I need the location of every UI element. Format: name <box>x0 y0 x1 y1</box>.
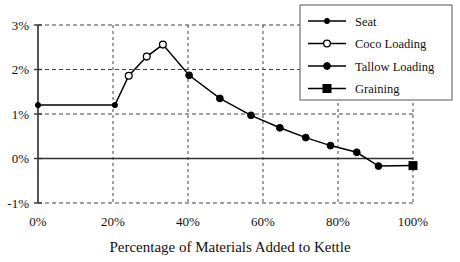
legend-marker-small-filled-circle <box>324 18 329 23</box>
data-point-marker <box>125 72 132 79</box>
legend-marker-filled-square <box>323 85 331 93</box>
y-tick-label: 0% <box>12 151 30 166</box>
x-tick-label: 80% <box>326 214 350 229</box>
x-tick-label: 0% <box>29 214 47 229</box>
data-point-marker <box>159 41 166 48</box>
legend-label: Tallow Loading <box>355 60 435 74</box>
y-tick-label: 3% <box>12 18 30 33</box>
data-point-marker <box>327 142 334 149</box>
data-point-marker <box>375 163 382 170</box>
legend-marker-filled-circle <box>324 63 331 70</box>
data-point-marker <box>112 103 117 108</box>
y-tick-label: -1% <box>7 196 29 211</box>
data-point-marker <box>248 112 255 119</box>
y-axis-tick-labels: -1%0%1%2%3% <box>7 18 29 211</box>
data-point-marker <box>409 162 417 170</box>
data-point-marker <box>35 103 40 108</box>
data-point-marker <box>276 124 283 131</box>
x-tick-label: 60% <box>251 214 275 229</box>
data-point-marker <box>353 149 360 156</box>
data-point-marker <box>302 134 309 141</box>
data-point-marker <box>216 95 223 102</box>
x-axis-title: Percentage of Materials Added to Kettle <box>109 239 351 255</box>
y-tick-label: 2% <box>12 62 30 77</box>
chart-legend: SeatCoco LoadingTallow LoadingGraining <box>300 5 452 100</box>
legend-label: Graining <box>355 82 400 96</box>
data-point-marker <box>186 72 193 79</box>
x-tick-label: 100% <box>398 214 429 229</box>
line-chart: -1%0%1%2%3% 0%20%40%60%80%100% SeatCoco … <box>0 0 460 262</box>
chart-container: -1%0%1%2%3% 0%20%40%60%80%100% SeatCoco … <box>0 0 460 262</box>
x-tick-label: 40% <box>176 214 200 229</box>
legend-label: Coco Loading <box>355 37 427 51</box>
legend-label: Seat <box>355 15 377 29</box>
x-tick-label: 20% <box>101 214 125 229</box>
data-point-marker <box>143 53 150 60</box>
y-tick-label: 1% <box>12 107 30 122</box>
legend-marker-hollow-circle <box>324 40 331 47</box>
x-axis-tick-labels: 0%20%40%60%80%100% <box>29 214 428 229</box>
